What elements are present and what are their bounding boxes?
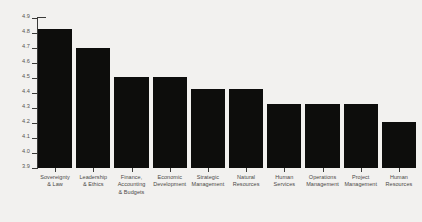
y-tick-label: 4.2 xyxy=(4,119,30,125)
x-tick-mark xyxy=(284,168,285,172)
bar xyxy=(344,104,378,169)
bar-slot xyxy=(305,18,339,168)
bar-slot xyxy=(267,18,301,168)
y-tick-label: 4.1 xyxy=(4,134,30,140)
x-tick-slot xyxy=(229,168,263,172)
x-tick-mark xyxy=(55,168,56,172)
x-tick-mark xyxy=(132,168,133,172)
x-category-label: Operations Management xyxy=(305,174,339,196)
y-tick-label: 4.5 xyxy=(4,74,30,80)
y-tick-label: 4.9 xyxy=(4,14,30,20)
x-tick-mark xyxy=(399,168,400,172)
bar-chart: 4.94.84.74.64.54.44.34.24.14.03.9 Sovere… xyxy=(0,0,422,222)
y-tick-label: 4.6 xyxy=(4,59,30,65)
bar-slot xyxy=(229,18,263,168)
x-tick-slot xyxy=(38,168,72,172)
bar xyxy=(153,77,187,169)
y-tick-label: 4.0 xyxy=(4,149,30,155)
x-category-label: Economic Development xyxy=(153,174,187,196)
x-category-label: Sovereignty & Law xyxy=(38,174,72,196)
x-tick-slot xyxy=(305,168,339,172)
y-tick-label: 4.4 xyxy=(4,89,30,95)
x-tick-mark xyxy=(246,168,247,172)
x-tick-slot xyxy=(382,168,416,172)
y-tick-label: 4.8 xyxy=(4,29,30,35)
x-tick-mark xyxy=(361,168,362,172)
bar xyxy=(191,89,225,169)
x-category-label: Finance, Accounting & Budgets xyxy=(114,174,148,196)
bar-series xyxy=(38,18,416,168)
bar xyxy=(267,104,301,169)
y-tick-label: 3.9 xyxy=(4,164,30,170)
x-tick-mark xyxy=(93,168,94,172)
bar xyxy=(114,77,148,169)
bar xyxy=(38,29,72,169)
x-tick-mark xyxy=(208,168,209,172)
bar-slot xyxy=(38,18,72,168)
bar-slot xyxy=(153,18,187,168)
x-category-label: Strategic Management xyxy=(191,174,225,196)
bar-slot xyxy=(344,18,378,168)
x-category-label: Natural Resources xyxy=(229,174,263,196)
bar xyxy=(305,104,339,169)
x-category-label: Project Management xyxy=(344,174,378,196)
x-category-label: Leadership & Ethics xyxy=(76,174,110,196)
x-tick-slot xyxy=(76,168,110,172)
x-tick-slot xyxy=(191,168,225,172)
bar-slot xyxy=(76,18,110,168)
x-category-label: Human Resources xyxy=(382,174,416,196)
x-tick-mark xyxy=(323,168,324,172)
bar-slot xyxy=(114,18,148,168)
bar-slot xyxy=(191,18,225,168)
bar xyxy=(76,48,110,168)
x-axis-category-labels: Sovereignty & LawLeadership & EthicsFina… xyxy=(38,174,416,196)
bar xyxy=(229,89,263,169)
y-tick-label: 4.7 xyxy=(4,44,30,50)
x-tick-slot xyxy=(114,168,148,172)
bar xyxy=(382,122,416,169)
x-tick-mark xyxy=(170,168,171,172)
x-tick-slot xyxy=(267,168,301,172)
bar-slot xyxy=(382,18,416,168)
x-category-label: Human Services xyxy=(267,174,301,196)
x-axis-ticks xyxy=(38,168,416,172)
x-tick-slot xyxy=(344,168,378,172)
y-tick-label: 4.3 xyxy=(4,104,30,110)
x-tick-slot xyxy=(153,168,187,172)
